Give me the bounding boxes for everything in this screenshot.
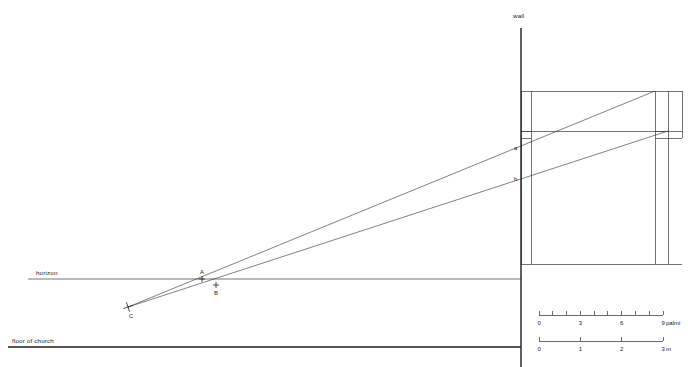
wall-label: wall (512, 12, 524, 19)
structure-group (521, 91, 682, 264)
point-A-label: A (200, 269, 204, 275)
perspective-diagram: 0369palmi0123m wall horizon floor of chu… (0, 0, 690, 367)
metre-scale-unit-label: m (666, 346, 671, 352)
metre-scale-tick-label: 0 (537, 346, 541, 352)
sight-line-upper (128, 91, 655, 307)
point-B-label: B (214, 290, 218, 296)
palmi-scale-tick-label: 9 (661, 320, 665, 326)
scales-group: 0369palmi0123m (537, 311, 680, 352)
reference-lines-group (8, 28, 521, 367)
palmi-scale-tick-label: 6 (620, 320, 624, 326)
metre-scale-tick-label: 1 (579, 346, 583, 352)
sight-line-lower (128, 131, 668, 307)
metre-scale-tick-label: 3 (661, 346, 665, 352)
text-labels-group: wall horizon floor of church a b A B C (12, 12, 524, 344)
palmi-scale-tick-label: 3 (579, 320, 583, 326)
wall-point-b-label: b (514, 176, 518, 182)
point-C-label: C (129, 313, 134, 319)
palmi-scale-tick-label: 0 (537, 320, 541, 326)
diagram-canvas: 0369palmi0123m wall horizon floor of chu… (0, 0, 690, 367)
palmi-scale-unit-label: palmi (666, 320, 680, 326)
point-marks-group (123, 276, 219, 312)
horizon-label: horizon (36, 269, 58, 276)
floor-of-church-label: floor of church (12, 337, 54, 344)
wall-point-a-label: a (514, 145, 518, 151)
metre-scale-tick-label: 2 (620, 346, 624, 352)
sight-lines-group (128, 91, 668, 307)
